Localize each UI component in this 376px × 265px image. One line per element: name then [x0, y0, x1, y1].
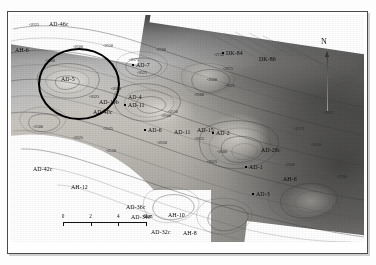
contour-label: -2625 [194, 137, 204, 141]
well-label: AD-36c [126, 205, 146, 211]
well-label: AH-8 [183, 231, 197, 237]
well-marker [124, 104, 126, 106]
highlight-ellipse-ad5 [38, 48, 120, 120]
well-marker [212, 132, 214, 134]
well-label: DK-84 [226, 51, 243, 57]
well-label: AD-7 [136, 63, 150, 69]
well-label: DK-86 [259, 57, 276, 63]
scale-label-unit: 6km [143, 213, 152, 219]
contour-label: -2550 [106, 149, 116, 153]
well-label: AD-3 [256, 192, 270, 198]
well-label: AD-46c [49, 22, 69, 28]
contour-label: -2625 [225, 84, 235, 88]
well-label: AD-28c [261, 148, 281, 154]
north-arrow-shaft [327, 53, 328, 111]
contour-label: -2650 [311, 143, 321, 147]
well-label: AD-4 [128, 95, 142, 101]
well-label: AH-6 [283, 177, 297, 183]
well-label: AD-42c [33, 167, 53, 173]
scale-tick-0 [63, 222, 64, 226]
well-marker [252, 193, 254, 195]
well-label: AH-10 [168, 213, 185, 219]
contour-label: -2700 [337, 175, 347, 179]
contour-label: -2625 [137, 71, 147, 75]
well-marker [222, 52, 224, 54]
well-label: AD-1 [249, 165, 263, 171]
scale-label-2: 2 [89, 213, 92, 219]
scale-tick-2 [91, 222, 92, 226]
scale-tick-6 [146, 222, 147, 226]
well-label: AD-11 [174, 130, 191, 136]
contour-label: -2625 [73, 136, 83, 140]
contour-label: -2650 [103, 44, 113, 48]
map-plate: -2625-2600-2650-2600-2700-2675-2625-2750… [11, 15, 364, 242]
well-label: AD-6 [148, 128, 162, 134]
well-label: AH-6 [15, 48, 29, 54]
contour-label: -2625 [207, 160, 217, 164]
contour-label: -2600 [285, 163, 295, 167]
contour-label: -2600 [161, 114, 171, 118]
well-marker [132, 64, 134, 66]
contour-label: -2600 [194, 93, 204, 97]
well-label: AD-11 [128, 103, 145, 109]
contour-label: -2525 [103, 127, 113, 131]
contour-label: -2700 [156, 48, 166, 52]
scale-label-0: 0 [62, 213, 65, 219]
contour-label: -2650 [157, 141, 167, 145]
well-marker [144, 129, 146, 131]
well-label: AD-32c [151, 230, 171, 236]
scale-bar-line [63, 222, 147, 223]
well-marker [245, 166, 247, 168]
contour-label: -2625 [29, 23, 39, 27]
scale-label-4: 4 [117, 213, 120, 219]
north-arrow: N [317, 37, 339, 113]
well-label: AD-2 [216, 131, 230, 137]
figure-root: -2625-2600-2650-2600-2700-2675-2625-2750… [0, 0, 376, 265]
contour-label: -2600 [207, 78, 217, 82]
scale-bar: 0 2 4 6km [63, 213, 151, 229]
contour-label: -2500 [33, 125, 43, 129]
annotation-layer: -2625-2600-2650-2600-2700-2675-2625-2750… [11, 15, 364, 242]
north-arrow-label: N [321, 37, 327, 46]
scale-tick-4 [118, 222, 119, 226]
contour-label: -2575 [294, 127, 304, 131]
well-label: AH-12 [71, 185, 88, 191]
contour-label: -2675 [223, 67, 233, 71]
contour-label: -2600 [217, 150, 227, 154]
